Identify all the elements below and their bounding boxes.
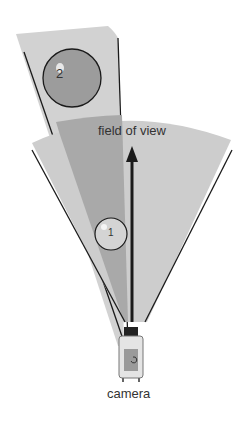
object-1-highlight (101, 224, 107, 230)
camera-label: camera (107, 386, 150, 401)
fov-diagram (0, 0, 249, 424)
object-1-label: 1 (108, 227, 114, 238)
camera-lens-icon (124, 327, 138, 336)
object-2-label: 2 (56, 66, 63, 81)
object-2-circle (43, 49, 101, 107)
overlap-region (56, 115, 128, 322)
camera-panel-icon (124, 349, 138, 371)
fov-label: field of view (98, 123, 166, 138)
